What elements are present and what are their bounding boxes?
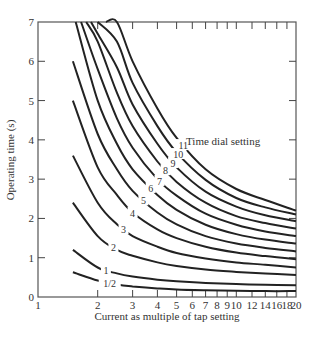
x-tick-label: 1 [35, 299, 41, 311]
y-tick-label: 0 [29, 291, 35, 303]
curve-label: 5 [141, 195, 146, 206]
y-tick-label: 7 [29, 16, 35, 28]
curve-label: 8 [163, 165, 168, 176]
x-tick-label: 12 [247, 299, 258, 311]
curve-label: 3 [121, 224, 126, 235]
curve-label: 2 [111, 242, 116, 253]
y-axis-title: Operating time (s) [4, 119, 17, 200]
curve-tds-8 [86, 22, 296, 229]
y-tick-label: 2 [29, 212, 35, 224]
curve-tds-7 [81, 22, 296, 236]
y-tick-label: 4 [29, 134, 35, 146]
y-tick-label: 6 [29, 55, 35, 67]
x-tick-label: 20 [291, 299, 303, 311]
curve-tds-6 [76, 22, 296, 244]
y-tick-label: 3 [29, 173, 35, 185]
chart: 12345678910121416182001234567 1/21234567… [0, 0, 320, 340]
curve-label: 7 [157, 176, 162, 187]
x-tick-label: 14 [260, 299, 272, 311]
y-tick-label: 5 [29, 95, 35, 107]
curve-label: 4 [130, 208, 135, 219]
curve-tds-3 [73, 156, 296, 268]
x-axis-title: Current as multiple of tap setting [94, 310, 240, 322]
axes: 12345678910121416182001234567 [29, 16, 303, 311]
curve-tds-11 [106, 19, 296, 210]
annotation-time-dial-setting: Time dial setting [186, 135, 261, 147]
curve-label: 1 [103, 265, 108, 276]
curve-label: 6 [148, 183, 153, 194]
curve-label: 1/2 [103, 278, 116, 289]
y-tick-label: 1 [29, 252, 35, 264]
